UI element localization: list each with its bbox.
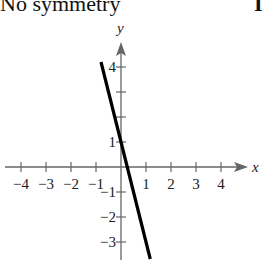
y-tick-label: 1 [109, 134, 117, 150]
x-tick-label: 4 [217, 176, 225, 192]
y-tick-label: 4 [109, 59, 117, 75]
y-ticks: 41−1−2−3 [100, 59, 126, 250]
x-tick-label: 2 [167, 176, 175, 192]
y-tick-label: −3 [100, 234, 116, 250]
y-tick-label: −2 [100, 209, 116, 225]
x-tick-label: −4 [13, 176, 29, 192]
graph: x y −4−3−2−11234 41−1−2−3 [0, 0, 265, 260]
x-tick-label: −3 [38, 176, 54, 192]
x-tick-label: 3 [192, 176, 200, 192]
y-tick-label: −1 [100, 184, 116, 200]
x-tick-label: −2 [63, 176, 79, 192]
x-tick-label: 1 [142, 176, 150, 192]
x-axis-label: x [251, 159, 259, 175]
y-axis-label: y [115, 20, 124, 36]
